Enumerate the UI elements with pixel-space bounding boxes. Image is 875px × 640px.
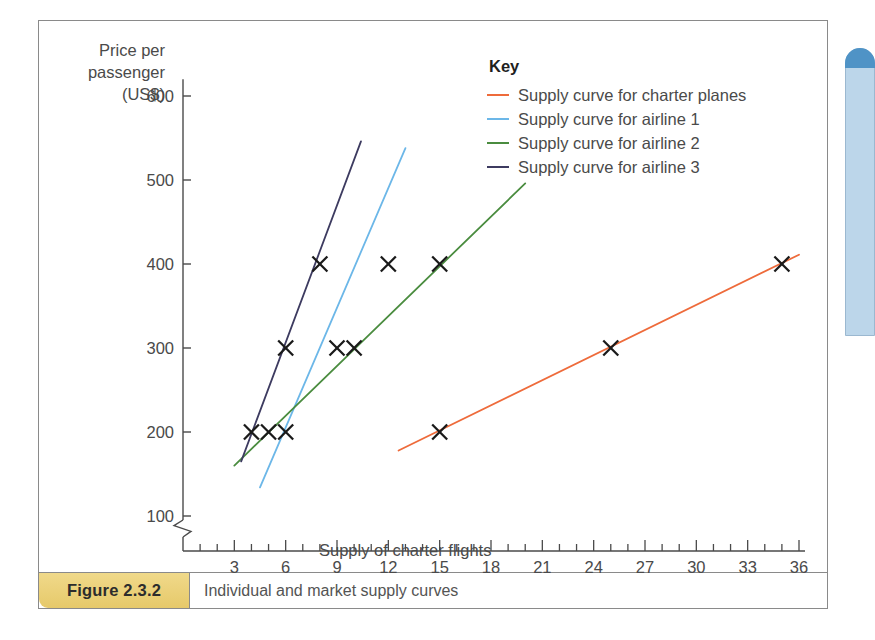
data-point-marker-2-0 [261,425,276,440]
x-tick-label-18: 18 [482,558,500,574]
series-line-2 [234,183,525,465]
figure-caption-text: Individual and market supply curves [190,573,827,608]
data-point-marker-1-1 [330,341,345,356]
x-tick-label-15: 15 [430,558,448,574]
x-tick-label-12: 12 [379,558,397,574]
series-line-0 [399,255,799,451]
y-tick-label-600: 600 [146,87,174,105]
x-tick-label-30: 30 [687,558,705,574]
chart-plot-area: Price per passenger (US$) Supply of char… [39,21,829,574]
data-point-marker-2-1 [347,341,362,356]
x-tick-label-36: 36 [790,558,808,574]
figure-number-badge: Figure 2.3.2 [39,573,190,608]
x-tick-label-33: 33 [738,558,756,574]
data-point-marker-1-2 [381,257,396,272]
side-panel-card [845,48,875,336]
side-panel-card-header [845,48,875,68]
x-tick-label-6: 6 [281,558,290,574]
x-tick-label-24: 24 [584,558,602,574]
axis-group [174,79,805,551]
chart-svg: 100200300400500600 369121518212427303336 [39,21,829,574]
y-tick-label-200: 200 [146,423,174,441]
x-tick-label-3: 3 [230,558,239,574]
series-group [234,141,799,487]
series-line-3 [241,141,361,461]
data-point-marker-3-0 [244,425,259,440]
y-tick-label-300: 300 [146,339,174,357]
figure-frame: Price per passenger (US$) Supply of char… [38,20,828,573]
data-point-marker-0-2 [774,257,789,272]
data-point-marker-2-2 [432,257,447,272]
y-tick-label-400: 400 [146,255,174,273]
x-tick-label-27: 27 [636,558,654,574]
y-axis-break-marker [174,520,191,537]
data-point-marker-0-1 [603,341,618,356]
x-tick-label-21: 21 [533,558,551,574]
y-tick-label-500: 500 [146,171,174,189]
x-tick-group: 369121518212427303336 [200,540,808,574]
y-tick-group: 100200300400500600 [146,87,191,525]
figure-caption-bar: Figure 2.3.2 Individual and market suppl… [38,573,828,609]
marker-group [244,257,789,440]
x-tick-label-9: 9 [332,558,341,574]
y-tick-label-100: 100 [146,507,174,525]
